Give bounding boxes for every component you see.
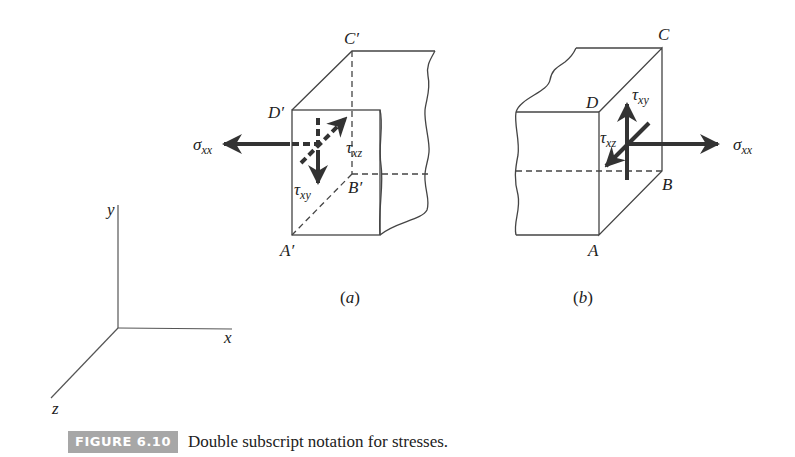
panel-a-vertex-d: D′ [267,103,284,122]
coordinate-axes [51,205,232,398]
panel-a-hidden-diagonal [292,174,352,235]
panel-a-labels: C′ D′ B′ A′ σxx τxz τxy (a) [193,29,362,307]
panel-b-vertex-a: A [587,241,599,260]
panel-a-tau-xz-label: τxz [346,138,362,160]
z-axis-label: z [51,399,59,418]
panel-a-caption: (a) [340,288,360,307]
panel-a-vertex-c: C′ [344,29,359,48]
figure-caption: FIGURE 6.10 Double subscript notation fo… [68,431,448,453]
panel-b-vertex-b: B [662,175,673,194]
panel-b-sigma-xx-label: σxx [733,135,753,157]
panel-b-labels: C D B A τxy τxz σxx (b) [573,25,753,307]
z-axis [51,328,118,398]
panel-b-vertex-c: C [658,25,670,44]
panel-a-top-face [292,51,435,110]
panel-b-caption: (b) [573,288,593,307]
panel-b-element [515,48,662,235]
panel-b-tau-xz-label: τxz [600,128,616,150]
panel-a-cut-edge [380,51,435,235]
panel-b-tau-xy-label: τxy [632,85,649,107]
panel-a-vertex-a: A′ [279,241,294,260]
figure-caption-text: Double subscript notation for stresses. [188,432,448,452]
figure-number-badge: FIGURE 6.10 [68,431,178,453]
y-axis-label: y [105,200,115,219]
x-axis [118,328,232,329]
panel-a-vertex-b: B′ [348,178,362,197]
panel-a-sigma-xx-label: σxx [193,135,213,157]
x-axis-label: x [223,328,232,347]
panel-a-stress-arrows [224,118,346,183]
panel-a-tau-xz-arrow [301,118,346,163]
stress-notation-figure: C′ D′ B′ A′ σxx τxz τxy (a) [0,0,795,457]
panel-b-vertex-d: D [585,93,599,112]
panel-a-element [292,51,435,235]
panel-b-cut-edge-top [516,48,576,112]
panel-b-cut-edge-left [515,112,518,235]
panel-a-tau-xy-label: τxy [294,180,311,202]
